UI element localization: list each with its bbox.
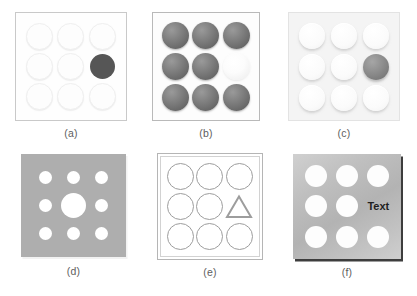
sphere-shape [192,84,219,111]
circle-shape [26,23,53,50]
panel-c-cell-r2c3 [360,51,392,82]
panel-a-cell-r1c1 [24,21,55,51]
panel-e-cell-r3c3 [225,221,254,251]
panel-b-caption: (b) [152,127,260,139]
panel-b-grid [160,20,252,113]
panel-f-cell-r1c1 [300,161,331,191]
panel-c-cell-r2c2 [328,51,360,82]
panel-b-cell-r3c3 [221,82,252,113]
panel-f-cell-r2c3: Text [363,191,394,221]
hole-shape [39,171,52,184]
panel-c-cell-r3c1 [296,82,328,113]
embossed-circle-shape [363,23,389,49]
panel-f-grid: Text [300,161,394,252]
panel-e-inner-frame [160,156,260,257]
embossed-circle-shape [299,85,325,111]
panel-e-cell-r1c1 [166,162,195,192]
panel-f-cell-r2c2 [331,191,362,221]
panel-c-cell-r3c3 [360,82,392,113]
circle-shape [89,23,116,50]
circle-outline-shape [167,193,194,220]
panel-c-caption: (c) [288,127,400,139]
panel-e-cell-r1c2 [195,162,224,192]
panel-a-cell-r2c3 [87,51,118,81]
sphere-shape [162,84,189,111]
hole-shape [367,165,389,187]
panel-f: Text (f) [293,154,401,259]
panel-f-cell-r1c3 [363,161,394,191]
panel-d-caption: (d) [21,265,126,277]
panel-a-cell-r2c2 [55,51,86,81]
panel-f-box: Text [293,154,401,259]
hole-shape [95,171,108,184]
panel-b-cell-r1c3 [221,20,252,51]
panel-b-cell-r2c2 [191,51,222,82]
anomaly-gray-sphere [363,54,389,80]
hole-shape [67,227,80,240]
panel-f-caption: (f) [293,266,401,278]
panel-e-caption: (e) [157,266,263,278]
sphere-shape [162,22,189,49]
panel-a-cell-r1c3 [87,21,118,51]
panel-c-grid [296,20,392,113]
circle-outline-shape [167,163,194,190]
panel-b-cell-r3c2 [191,82,222,113]
panel-d-cell-r3c3 [88,219,116,247]
panel-c-box [288,12,400,121]
embossed-circle-shape [331,54,357,80]
panel-e-cell-r1c3 [225,162,254,192]
panel-a: (a) [15,12,127,121]
panel-c-cell-r1c2 [328,20,360,51]
panel-d-cell-r1c2 [59,164,87,192]
circle-outline-shape [196,223,223,250]
circle-shape [26,83,53,110]
panel-e-cell-r2c2 [195,192,224,222]
panel-c-cell-r2c1 [296,51,328,82]
circle-shape [89,83,116,110]
panel-e-box [157,153,263,260]
circle-shape [57,23,84,50]
panel-d-cell-r1c3 [88,164,116,192]
anomaly-triangle-outline [225,194,253,219]
panel-f-cell-r3c3 [363,222,394,252]
circle-outline-shape [196,163,223,190]
figure-container: (a) (b) [0,0,417,296]
panel-a-cell-r1c2 [55,21,86,51]
panel-e: (e) [157,153,263,260]
panel-a-cell-r3c3 [87,82,118,112]
panel-c-cell-r1c1 [296,20,328,51]
hole-shape [336,195,358,217]
circle-outline-shape [196,193,223,220]
embossed-circle-shape [363,85,389,111]
hole-shape [305,226,327,248]
panel-b-cell-r3c1 [160,82,191,113]
sphere-shape [223,84,250,111]
panel-c-cell-r1c3 [360,20,392,51]
panel-d-cell-r1c1 [31,164,59,192]
hole-shape [95,199,108,212]
sphere-shape [192,53,219,80]
hole-shape [367,226,389,248]
panel-d-cell-r3c1 [31,219,59,247]
embossed-circle-shape [299,23,325,49]
panel-a-cell-r2c1 [24,51,55,81]
panel-e-cell-r3c2 [195,221,224,251]
hole-shape [305,195,327,217]
panel-f-cell-r2c1 [300,191,331,221]
anomaly-text-label: Text [367,201,389,212]
panel-a-cell-r3c1 [24,82,55,112]
panel-c: (c) [288,12,400,121]
panel-f-cell-r3c2 [331,222,362,252]
panel-d: (d) [21,154,126,257]
panel-d-grid [31,164,116,247]
panel-b-cell-r2c1 [160,51,191,82]
sphere-shape [192,22,219,49]
panel-a-grid [24,21,118,112]
panel-b-cell-r2c3 [221,51,252,82]
hole-shape [95,227,108,240]
embossed-circle-shape [299,54,325,80]
sphere-shape [162,53,189,80]
panel-a-caption: (a) [15,127,127,139]
panel-b-cell-r1c2 [191,20,222,51]
panel-e-cell-r2c3 [225,192,254,222]
